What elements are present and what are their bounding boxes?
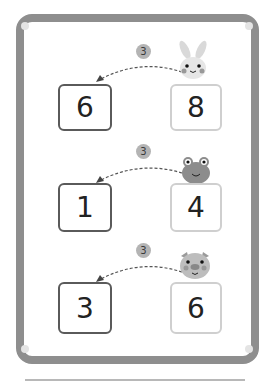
step-badge: 3: [136, 44, 151, 59]
answer-box: 3: [58, 282, 112, 334]
rabbit-icon: [173, 40, 213, 82]
divider-line: [25, 379, 245, 381]
hop-arrow-2: [99, 168, 182, 181]
given-box: 6: [170, 282, 222, 334]
answer-box: 6: [58, 84, 112, 131]
arrow-layer: [0, 0, 267, 382]
frog-icon: [179, 155, 213, 185]
hop-arrow-3: [99, 267, 182, 280]
step-badge: 3: [136, 243, 151, 258]
step-badge: 3: [136, 144, 151, 159]
answer-box: 1: [58, 183, 112, 232]
given-box: 8: [170, 84, 222, 131]
given-box: 4: [170, 183, 222, 232]
pig-icon: [177, 250, 213, 282]
hop-arrow-1: [99, 67, 182, 80]
